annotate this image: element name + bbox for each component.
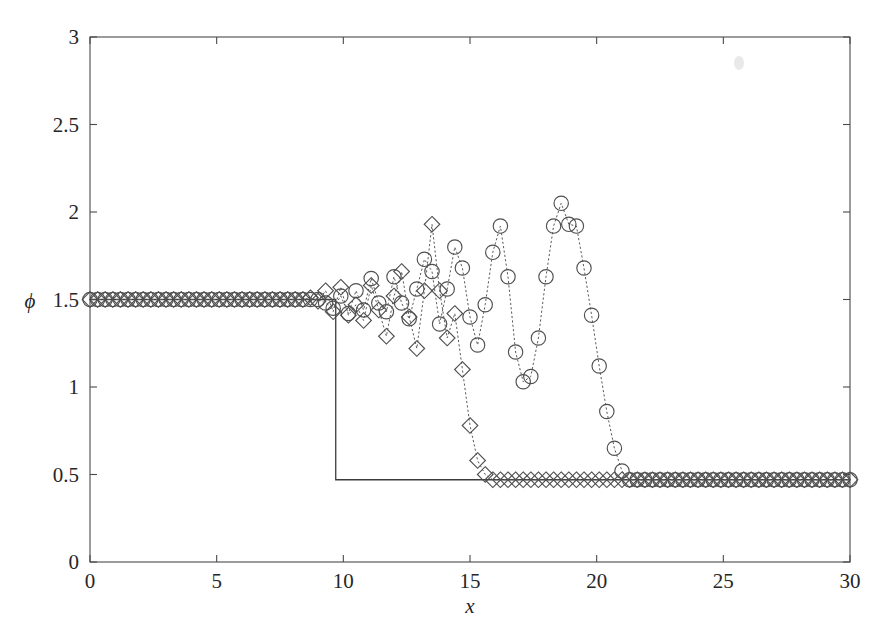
data-point-circle-marker bbox=[615, 464, 629, 478]
x-tick-label: 10 bbox=[333, 569, 354, 593]
series-exact-solution bbox=[90, 300, 850, 480]
x-tick-label: 20 bbox=[586, 569, 607, 593]
y-tick-label: 2.5 bbox=[53, 113, 79, 137]
data-point-circle-marker bbox=[410, 282, 424, 296]
labels-layer: 05101520253000.511.522.53 bbox=[53, 25, 861, 593]
y-tick-label: 1.5 bbox=[53, 288, 79, 312]
x-tick-label: 0 bbox=[85, 569, 96, 593]
series-line-exact bbox=[90, 300, 850, 480]
data-point-circle-marker bbox=[349, 284, 363, 298]
y-tick-label: 2 bbox=[69, 200, 80, 224]
data-point-circle-marker bbox=[577, 261, 591, 275]
data-point-circle-marker bbox=[455, 261, 469, 275]
y-tick-label: 1 bbox=[69, 375, 80, 399]
scan-artifact-group bbox=[734, 56, 744, 70]
y-tick-label: 0.5 bbox=[53, 463, 79, 487]
data-point-diamond-marker bbox=[333, 279, 349, 295]
y-tick-label: 3 bbox=[69, 25, 80, 49]
scan-artifact-speck bbox=[734, 56, 744, 70]
y-tick-label: 0 bbox=[69, 550, 80, 574]
data-point-diamond-marker bbox=[409, 341, 425, 357]
x-tick-label: 15 bbox=[460, 569, 481, 593]
data-point-circle-marker bbox=[546, 219, 560, 233]
series-circle-series bbox=[83, 196, 857, 487]
data-point-diamond-marker bbox=[379, 328, 395, 344]
data-point-diamond-marker bbox=[447, 306, 463, 322]
figure-container: 05101520253000.511.522.53 x ϕ bbox=[0, 0, 887, 644]
y-axis-title: ϕ bbox=[25, 289, 36, 313]
series-line-circle-series bbox=[90, 203, 850, 480]
x-tick-label: 30 bbox=[840, 569, 861, 593]
data-point-diamond-marker bbox=[462, 418, 478, 434]
data-point-circle-marker bbox=[584, 308, 598, 322]
data-point-diamond-marker bbox=[470, 453, 486, 469]
series-line-diamond-series bbox=[90, 224, 850, 480]
x-axis-title: x bbox=[464, 594, 475, 618]
x-tick-label: 5 bbox=[211, 569, 222, 593]
data-point-circle-marker bbox=[448, 240, 462, 254]
series-diamond-series bbox=[82, 216, 858, 487]
series-layer bbox=[82, 196, 858, 488]
data-point-circle-marker bbox=[600, 404, 614, 418]
data-point-diamond-marker bbox=[455, 362, 471, 378]
x-tick-label: 25 bbox=[713, 569, 734, 593]
data-point-circle-marker bbox=[402, 312, 416, 326]
data-point-circle-marker bbox=[470, 338, 484, 352]
plot-svg: 05101520253000.511.522.53 x ϕ bbox=[0, 0, 887, 644]
data-point-circle-marker bbox=[394, 296, 408, 310]
